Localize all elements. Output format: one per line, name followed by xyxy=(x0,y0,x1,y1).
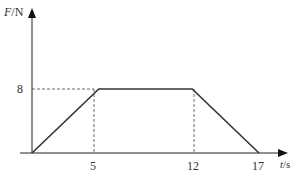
x-axis-unit: /s xyxy=(283,158,290,170)
y-axis-arrow-icon xyxy=(28,8,36,18)
force-time-chart: F/N t/s 8 5 12 17 xyxy=(0,0,300,180)
y-tick-8: 8 xyxy=(17,83,23,95)
y-axis-unit: /N xyxy=(11,5,23,19)
force-series-line xyxy=(32,89,259,153)
y-axis-label: F/N xyxy=(4,6,23,18)
x-tick-17: 17 xyxy=(252,160,264,172)
chart-canvas xyxy=(0,0,300,180)
x-tick-5: 5 xyxy=(90,160,96,172)
x-axis-arrow-icon xyxy=(278,149,288,157)
x-tick-12: 12 xyxy=(187,160,199,172)
x-axis-label: t/s xyxy=(280,159,290,170)
